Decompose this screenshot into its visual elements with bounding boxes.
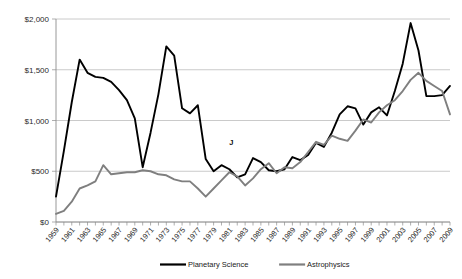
y-tick-label: $2,000 <box>25 15 50 24</box>
annotations-group: J <box>229 138 233 147</box>
ytick-labels-group: $0$500$1,000$1,500$2,000 <box>25 15 50 227</box>
x-tick-label: 1993 <box>311 226 329 245</box>
y-tick-label: $1,500 <box>25 66 50 75</box>
x-tick-label: 1979 <box>201 226 219 245</box>
legend-label-2: Astrophysics <box>307 260 350 269</box>
x-tick-label: 1961 <box>59 226 77 245</box>
xticks-group <box>56 222 450 226</box>
x-tick-label: 1999 <box>359 226 377 245</box>
x-tick-label: 1983 <box>233 226 251 245</box>
y-tick-label: $1,000 <box>25 117 50 126</box>
x-tick-label: 1969 <box>122 226 140 245</box>
x-tick-label: 1995 <box>327 226 345 245</box>
x-tick-label: 1971 <box>138 226 156 245</box>
x-tick-label: 1965 <box>91 226 109 245</box>
x-tick-label: 1985 <box>248 226 266 245</box>
line-chart: $0$500$1,000$1,500$2,000 195919611963196… <box>0 0 462 279</box>
x-tick-label: 1975 <box>169 226 187 245</box>
x-tick-label: 1963 <box>75 226 93 245</box>
x-tick-label: 1973 <box>154 226 172 245</box>
series-group <box>56 23 450 214</box>
legend-label-1: Planetary Science <box>188 260 248 269</box>
legend-group: Planetary ScienceAstrophysics <box>160 260 350 269</box>
x-tick-label: 2007 <box>422 226 440 245</box>
series-line-astrophysics <box>56 73 450 214</box>
x-tick-label: 1989 <box>280 226 298 245</box>
x-tick-label: 1977 <box>185 226 203 245</box>
gridlines-group <box>56 19 450 222</box>
x-tick-label: 1987 <box>264 226 282 245</box>
series-line-planetary-science <box>56 23 450 197</box>
y-tick-label: $0 <box>40 218 49 227</box>
x-tick-label: 2003 <box>390 226 408 245</box>
chart-canvas: $0$500$1,000$1,500$2,000 195919611963196… <box>0 0 462 279</box>
x-tick-label: 1967 <box>106 226 124 245</box>
chart-annotation: J <box>229 138 233 147</box>
x-tick-label: 1959 <box>43 226 61 245</box>
x-tick-label: 2005 <box>406 226 424 245</box>
x-tick-label: 1997 <box>343 226 361 245</box>
x-tick-label: 2009 <box>437 226 455 245</box>
x-tick-label: 1981 <box>217 226 235 245</box>
x-tick-label: 2001 <box>374 226 392 245</box>
xtick-labels-group: 1959196119631965196719691971197319751977… <box>43 226 455 245</box>
x-tick-label: 1991 <box>296 226 314 245</box>
y-tick-label: $500 <box>31 167 49 176</box>
